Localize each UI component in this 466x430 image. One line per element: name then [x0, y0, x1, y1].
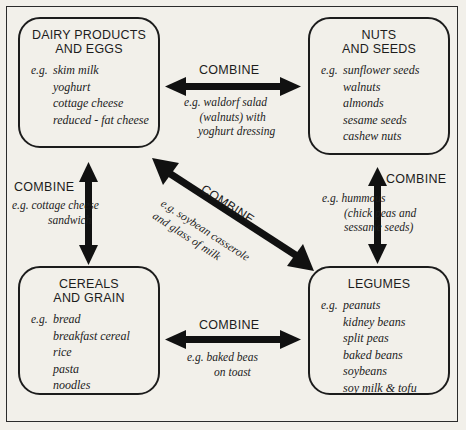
list-item: bread — [53, 311, 130, 328]
group-title-nuts: NUTS AND SEEDS — [310, 28, 448, 56]
list-item: soybeans — [343, 363, 417, 380]
arrow-dairy-nuts — [165, 77, 301, 96]
list-item: skim milk — [53, 62, 149, 79]
list-item: walnuts — [343, 79, 419, 96]
example-line: e.g. waldorf salad — [176, 95, 275, 110]
arrow-cereals-legumes — [165, 330, 301, 349]
list-item: kidney beans — [343, 314, 417, 331]
example-text-nuts-legumes: e.g. hummous (chick peas and sessame see… — [322, 191, 416, 235]
example-list-legumes: peanuts kidney beans split peas baked be… — [343, 297, 417, 396]
example-text-dairy-cereals: e.g. cottage cheese sandwich — [12, 198, 99, 227]
example-row-legumes: e.g. peanuts kidney beans split peas bak… — [310, 297, 448, 396]
list-item: split peas — [343, 330, 417, 347]
example-line: sandwich — [12, 213, 99, 228]
list-item: breakfast cereal — [53, 328, 130, 345]
combine-label-dairy-nuts: COMBINE — [199, 63, 259, 77]
example-line: yoghurt dressing — [176, 124, 275, 139]
group-title-dairy: DAIRY PRODUCTS AND EGGS — [20, 28, 158, 56]
example-list-cereals: bread breakfast cereal rice pasta noodle… — [53, 311, 130, 394]
example-line: e.g. cottage cheese — [12, 198, 99, 213]
diagram-canvas: DAIRY PRODUCTS AND EGGS e.g. skim milk y… — [0, 0, 466, 430]
group-box-legumes[interactable]: LEGUMES e.g. peanuts kidney beans split … — [308, 266, 450, 395]
example-list-dairy: skim milk yoghurt cottage cheese reduced… — [53, 62, 149, 128]
list-item: sunflower seeds — [343, 62, 419, 79]
eg-label-cereals: e.g. — [31, 311, 53, 394]
group-title-cereals: CEREALS AND GRAIN — [20, 277, 158, 305]
example-list-nuts: sunflower seeds walnuts almonds sesame s… — [343, 62, 419, 145]
eg-label-legumes: e.g. — [321, 297, 343, 396]
example-line: (chick peas and — [322, 206, 416, 221]
list-item: noodles — [53, 377, 130, 394]
group-box-dairy-products-and-eggs[interactable]: DAIRY PRODUCTS AND EGGS e.g. skim milk y… — [18, 17, 160, 148]
list-item: pasta — [53, 361, 130, 378]
list-item: soy milk & tofu — [343, 380, 417, 397]
example-line: (walnuts) with — [176, 110, 275, 125]
list-item: cashew nuts — [343, 128, 419, 145]
group-title-legumes: LEGUMES — [310, 277, 448, 291]
group-box-nuts-and-seeds[interactable]: NUTS AND SEEDS e.g. sunflower seeds waln… — [308, 17, 450, 155]
group-box-cereals-and-grain[interactable]: CEREALS AND GRAIN e.g. bread breakfast c… — [18, 266, 160, 395]
list-item: yoghurt — [53, 79, 149, 96]
list-item: baked beans — [343, 347, 417, 364]
list-item: reduced - fat cheese — [53, 112, 149, 129]
list-item: rice — [53, 344, 130, 361]
combine-label-cereals-legumes: COMBINE — [199, 318, 259, 332]
example-line: on toast — [187, 365, 258, 380]
list-item: almonds — [343, 95, 419, 112]
example-line: e.g. hummous — [322, 191, 416, 206]
combine-label-nuts-legumes: COMBINE — [386, 172, 446, 186]
example-line: sessame seeds) — [322, 220, 416, 235]
example-text-dairy-nuts: e.g. waldorf salad (walnuts) with yoghur… — [176, 95, 275, 139]
list-item: sesame seeds — [343, 112, 419, 129]
list-item: cottage cheese — [53, 95, 149, 112]
example-row-cereals: e.g. bread breakfast cereal rice pasta n… — [20, 311, 158, 394]
eg-label-dairy: e.g. — [31, 62, 53, 128]
example-line: e.g. baked beas — [187, 350, 258, 365]
example-row-nuts: e.g. sunflower seeds walnuts almonds ses… — [310, 62, 448, 145]
combine-label-dairy-cereals: COMBINE — [14, 180, 74, 194]
example-text-cereals-legumes: e.g. baked beas on toast — [187, 350, 258, 379]
example-row-dairy: e.g. skim milk yoghurt cottage cheese re… — [20, 62, 158, 128]
list-item: peanuts — [343, 297, 417, 314]
eg-label-nuts: e.g. — [321, 62, 343, 145]
